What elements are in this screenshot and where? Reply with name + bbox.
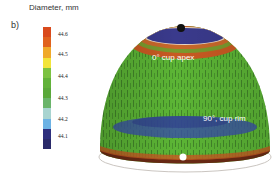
apex-marker xyxy=(177,24,185,32)
cup-dome-map xyxy=(0,0,280,179)
rim-label: 90°, cup rim xyxy=(203,114,246,123)
rim-marker xyxy=(180,154,187,161)
apex-label: 0° cup apex xyxy=(152,53,194,62)
